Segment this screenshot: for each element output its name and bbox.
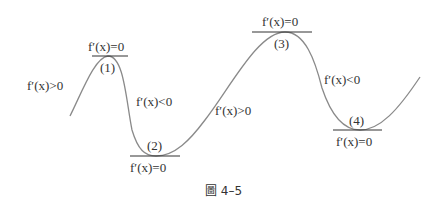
point-4-condition: f′(x)=0: [336, 135, 372, 148]
segment-label-rising-2: f′(x)>0: [215, 104, 251, 117]
segment-label-falling-1: f′(x)<0: [136, 95, 172, 108]
point-4-label: (4): [349, 114, 364, 127]
point-2-condition: f′(x)=0: [130, 161, 166, 174]
point-1-label: (1): [100, 61, 115, 74]
segment-label-rising-left: f′(x)>0: [27, 79, 63, 92]
point-3-label: (3): [274, 37, 289, 50]
point-2-label: (2): [147, 139, 162, 152]
segment-label-falling-3: f′(x)<0: [324, 73, 360, 86]
point-1-condition: f′(x)=0: [88, 40, 124, 53]
figure-caption: 圖 4–5: [205, 185, 242, 197]
curve-diagram: [0, 0, 441, 200]
point-3-condition: f′(x)=0: [262, 15, 298, 28]
